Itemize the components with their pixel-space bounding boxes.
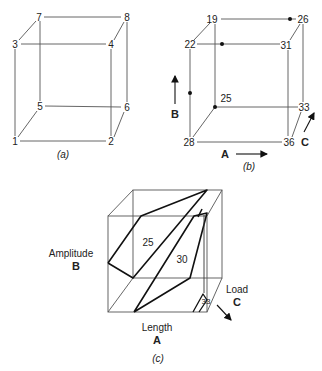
contour-label-33: 33	[202, 297, 211, 306]
cube-diagram-figure: 7 8 3 4 5 6 1 2 (a) 19 26 22 31 25	[0, 0, 322, 371]
axis-c-letter: C	[233, 296, 241, 308]
contour-label-25: 25	[142, 237, 154, 248]
center-point-dot	[288, 17, 292, 21]
vertex-value-28: 28	[183, 137, 195, 148]
edge-2-6	[114, 112, 124, 137]
contour-surface-30	[134, 213, 207, 312]
vertex-label-6: 6	[124, 102, 130, 113]
vertex-value-36: 36	[283, 137, 295, 148]
edge-31-26	[290, 24, 300, 40]
depth-edge	[207, 278, 222, 312]
axis-b-name: Amplitude	[49, 248, 94, 259]
vertex-value-19: 19	[206, 14, 218, 25]
edge-3-7	[19, 21, 36, 40]
caption-c: (c)	[152, 353, 164, 364]
vertex-label-8: 8	[124, 12, 130, 23]
vertex-label-4: 4	[108, 39, 114, 50]
axis-b-letter: B	[72, 260, 80, 272]
vertex-label-5: 5	[37, 101, 43, 112]
axis-c-name: Load	[226, 284, 248, 295]
vertex-label-2: 2	[108, 136, 114, 147]
panel-b-cube: 19 26 22 31 25 33 28 36 B A C (b)	[171, 14, 314, 172]
depth-edge	[108, 278, 133, 312]
vertex-value-26: 26	[297, 14, 309, 25]
depth-edge	[108, 190, 133, 216]
axis-a-name: Length	[142, 322, 173, 333]
edge-36-33	[292, 112, 301, 137]
contour-surface-25	[108, 190, 207, 278]
panel-c-cube: 25 30 33 Amplitude B Length A Load C (c)	[49, 190, 248, 364]
edge-5-6	[45, 106, 121, 107]
contour-label-30: 30	[176, 254, 188, 265]
axis-b-label: B	[171, 108, 179, 120]
vertex-value-25: 25	[220, 93, 232, 104]
center-point-dot	[188, 91, 192, 95]
edge-22-19	[194, 23, 210, 40]
center-point-dot	[213, 105, 217, 109]
vertex-value-33: 33	[298, 102, 310, 113]
depth-edge	[207, 190, 222, 216]
axis-a-letter: A	[153, 334, 161, 346]
edge-4-8	[114, 22, 124, 40]
axis-c-arrow	[217, 305, 231, 320]
edge-1-5	[18, 111, 37, 137]
vertex-value-22: 22	[184, 39, 196, 50]
vertex-label-3: 3	[12, 39, 18, 50]
vertex-value-31: 31	[280, 40, 292, 51]
center-point-dot	[220, 42, 224, 46]
caption-b: (b)	[243, 161, 255, 172]
axis-c-arrow	[304, 113, 314, 132]
panel-a-cube: 7 8 3 4 5 6 1 2 (a)	[12, 12, 130, 160]
axis-a-label: A	[221, 148, 229, 160]
edge-28-25	[193, 107, 215, 137]
caption-a: (a)	[57, 149, 69, 160]
vertex-label-7: 7	[36, 12, 42, 23]
vertex-label-1: 1	[12, 136, 18, 147]
axis-c-label: C	[301, 136, 309, 148]
